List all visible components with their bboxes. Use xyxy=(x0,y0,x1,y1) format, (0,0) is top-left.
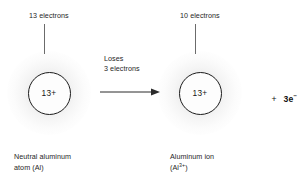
process-label-line-2: 3 electrons xyxy=(104,64,140,74)
nucleus-circle: 13+ xyxy=(28,72,71,115)
ion-formula-suffix: ) xyxy=(185,163,187,172)
electron-species-label: 3e− xyxy=(284,94,298,104)
plus-sign: + xyxy=(272,94,277,104)
right-caption-line-1: Aluminum ion xyxy=(170,152,214,163)
right-electron-count-label: 10 electrons xyxy=(180,11,220,21)
left-caption-line-1: Neutral aluminum xyxy=(14,152,71,163)
right-leader-line xyxy=(195,24,196,54)
left-nucleus-charge-label: 13+ xyxy=(42,89,57,97)
right-caption-line-2: (Al3+) xyxy=(170,163,188,174)
reaction-arrow xyxy=(100,84,160,102)
chemistry-diagram-figure: 13 electrons 13+ Neutral aluminum atom (… xyxy=(0,0,304,187)
left-caption-line-2: atom (Al) xyxy=(14,163,44,174)
left-electron-count-label: 13 electrons xyxy=(29,11,69,21)
right-nucleus-charge-label: 13+ xyxy=(193,89,208,97)
left-leader-line xyxy=(44,24,45,54)
ion-formula-prefix: (Al xyxy=(170,163,179,172)
aluminum-ion-glyph: 13+ xyxy=(158,51,242,135)
electron-coefficient: 3e xyxy=(284,94,294,104)
neutral-aluminum-atom-glyph: 13+ xyxy=(7,51,91,135)
electron-charge-superscript: − xyxy=(294,93,298,99)
released-electrons-term: +3e− xyxy=(262,84,297,114)
nucleus-circle: 13+ xyxy=(179,72,222,115)
process-label-line-1: Loses xyxy=(104,54,123,64)
